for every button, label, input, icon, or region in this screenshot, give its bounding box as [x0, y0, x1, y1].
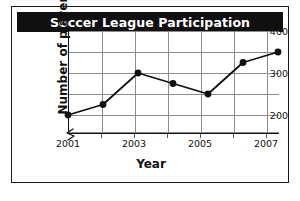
x-tick-2002	[101, 134, 102, 138]
x-tick-label-2001: 2001	[56, 138, 80, 149]
x-tick-2006	[233, 134, 234, 138]
gridline-x-2004	[168, 31, 169, 133]
y-tick-label-200: 200	[236, 110, 288, 121]
gridline-x-2002	[102, 31, 103, 133]
x-tick-label-2007: 2007	[254, 138, 278, 149]
y-tick-label-300: 300	[236, 68, 288, 79]
gridline-y-350	[69, 52, 279, 53]
x-tick-label-2003: 2003	[122, 138, 146, 149]
gridline-x-2003	[135, 31, 136, 133]
chart-figure: Soccer League Participation Number of pl…	[11, 6, 289, 183]
x-axis-title: Year	[12, 157, 290, 171]
gridline-x-2005	[201, 31, 202, 133]
x-tick-2004	[167, 134, 168, 138]
gridline-x-2006	[234, 31, 235, 133]
x-axis-line	[68, 133, 279, 134]
gridline-y-250	[69, 94, 279, 95]
y-tick-label-400: 400	[236, 26, 288, 37]
chart-title: Soccer League Participation	[50, 15, 250, 30]
x-tick-label-2005: 2005	[188, 138, 212, 149]
